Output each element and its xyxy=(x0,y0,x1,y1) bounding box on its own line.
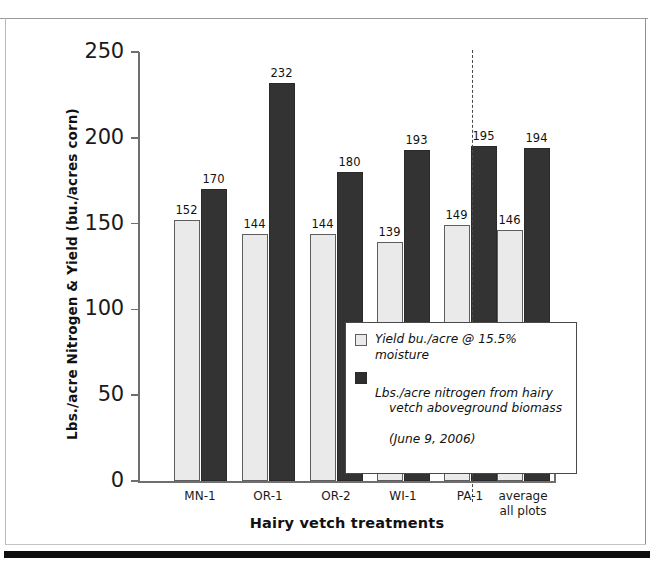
bar-or-1-series1 xyxy=(242,234,268,481)
y-tick-150 xyxy=(131,223,139,225)
x-axis-title: Hairy vetch treatments xyxy=(138,515,556,531)
bar-value-label: 170 xyxy=(195,172,233,186)
y-axis-title: Lbs./acre Nitrogen & Yield (bu./acres co… xyxy=(64,84,80,464)
bar-value-label: 194 xyxy=(518,131,556,145)
y-tick-label-50: 50 xyxy=(98,382,124,406)
bar-or-1-series2 xyxy=(269,83,295,481)
bar-chart: 050100150200250 Lbs./acre Nitrogen & Yie… xyxy=(0,0,670,575)
legend-label-nitrogen: Lbs./acre nitrogen from hairy vetch abov… xyxy=(375,370,562,463)
legend-swatch-dark-icon xyxy=(355,372,367,384)
legend-label-yield: Yield bu./acre @ 15.5% moisture xyxy=(375,332,566,363)
bar-mn-1-series2 xyxy=(201,189,227,481)
bar-value-label: 232 xyxy=(263,66,301,80)
y-tick-200 xyxy=(131,137,139,139)
legend-swatch-light-icon xyxy=(355,334,367,346)
legend-label-nitrogen-line2: vetch aboveground biomass xyxy=(375,401,562,417)
bar-value-label: 180 xyxy=(331,155,369,169)
legend-label-nitrogen-line1: Lbs./acre nitrogen from hairy xyxy=(375,386,553,400)
y-tick-label-150: 150 xyxy=(85,211,124,235)
legend-entry-yield: Yield bu./acre @ 15.5% moisture xyxy=(355,332,566,363)
y-tick-label-250: 250 xyxy=(85,39,124,63)
y-tick-label-0: 0 xyxy=(111,468,124,492)
y-tick-100 xyxy=(131,309,139,311)
bar-mn-1-series1 xyxy=(174,220,200,481)
y-tick-250 xyxy=(131,51,139,53)
x-axis-line xyxy=(138,481,556,483)
y-axis-line xyxy=(138,52,140,482)
bar-or-2-series1 xyxy=(310,234,336,481)
bar-value-label: 193 xyxy=(398,133,436,147)
legend-label-nitrogen-line3: (June 9, 2006) xyxy=(375,432,562,448)
y-tick-label-200: 200 xyxy=(85,125,124,149)
y-tick-50 xyxy=(131,394,139,396)
bar-value-label: 195 xyxy=(465,129,503,143)
legend-entry-nitrogen: Lbs./acre nitrogen from hairy vetch abov… xyxy=(355,370,566,463)
chart-legend: Yield bu./acre @ 15.5% moisture Lbs./acr… xyxy=(345,322,577,474)
y-tick-label-100: 100 xyxy=(85,296,124,320)
y-tick-0 xyxy=(131,480,139,482)
